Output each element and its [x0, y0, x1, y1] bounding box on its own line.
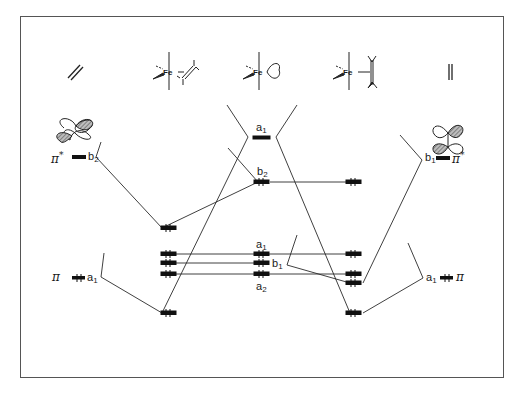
center-fragment-levels	[253, 136, 270, 276]
center-a1-label: a1	[256, 239, 267, 253]
right-b1-label: b1	[425, 152, 436, 166]
pi-star-orbital-left-icon	[57, 119, 93, 143]
mo-diagram	[0, 0, 523, 398]
center-a1-top-label: a1	[256, 122, 267, 136]
right-a1-label: a1	[426, 272, 437, 286]
fe-olefin-upright-icon	[333, 52, 377, 90]
fe-olefin-inplane-icon	[153, 52, 199, 90]
right-complex-levels	[346, 180, 361, 315]
right-pi-label: π	[456, 272, 464, 283]
ethylene-tilted-icon	[68, 65, 83, 80]
fe-label-upright: Fe	[343, 67, 352, 78]
center-a2-label: a2	[256, 281, 267, 295]
left-pi-star-label: π*	[51, 150, 63, 165]
fe-label-inplane: Fe	[163, 67, 172, 78]
center-b1-label: b1	[272, 258, 283, 272]
fe-label-fragment: Fe	[253, 67, 262, 78]
center-b2-label: b2	[257, 166, 268, 180]
left-a1-label: a1	[87, 272, 98, 286]
left-complex-levels	[161, 226, 176, 315]
left-b2-label: b2	[88, 151, 99, 165]
left-pi-label: π	[52, 272, 60, 283]
right-pi-star-label: π*	[452, 150, 464, 165]
ethylene-vertical-icon	[449, 64, 452, 80]
